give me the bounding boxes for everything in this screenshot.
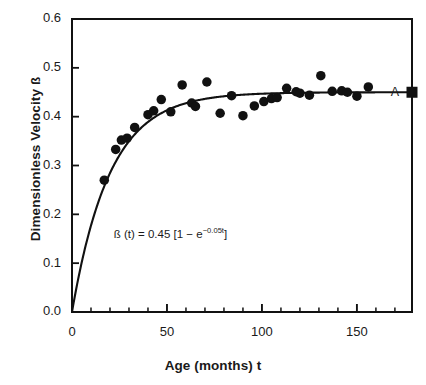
data-point-circle (202, 77, 212, 87)
y-tick-label: 0.3 (43, 157, 61, 172)
data-point-circle (238, 111, 248, 121)
data-point-circle (100, 175, 110, 185)
data-point-circle (166, 107, 176, 117)
equation-exponent: −0.05t (203, 226, 225, 235)
x-tick-label: 0 (68, 324, 75, 339)
y-tick-label: 0.6 (43, 10, 61, 25)
data-point-circle (191, 102, 201, 112)
y-tick-label: 0.4 (43, 108, 61, 123)
y-axis-tick-labels: 0.00.10.20.30.40.50.6 (43, 10, 61, 318)
data-point-circle (364, 82, 374, 92)
axis-tick-marks (72, 68, 395, 312)
x-axis-title-text: Age (months) t (165, 358, 262, 373)
data-point-circle (352, 91, 362, 101)
data-point-circle (227, 91, 237, 101)
y-tick-label: 0.1 (43, 255, 61, 270)
data-point-circle (215, 108, 225, 118)
x-axis-tick-labels: 050100150 (68, 324, 367, 339)
y-tick-label: 0.0 (43, 303, 61, 318)
data-point-square (407, 87, 418, 98)
data-point-circle (157, 95, 167, 105)
equation-tail: ] (224, 228, 227, 240)
data-point-circle (305, 90, 315, 100)
plot-frame-box (72, 19, 412, 312)
data-point-circle (122, 133, 132, 143)
y-axis-title-text: Dimensionless Velocity ß (28, 77, 43, 241)
x-axis-title: Age (months) t (0, 356, 426, 374)
chart-plot-area: 0.00.10.20.30.40.50.6 050100150 A ß (t) … (0, 0, 426, 385)
data-point-circle (149, 106, 159, 116)
fit-equation-annotation: ß (t) = 0.45 [1 − e−0.05t] (114, 226, 227, 240)
data-point-circle (316, 71, 326, 81)
data-point-circle (282, 84, 292, 94)
data-point-circle (177, 80, 187, 90)
data-point-circle (343, 88, 353, 98)
data-point-circle (130, 123, 140, 133)
equation-lead: ß (t) = 0.45 [1 − e (114, 228, 203, 240)
y-axis-title: Dimensionless Velocity ß (26, 39, 44, 279)
chart-figure: 0.00.10.20.30.40.50.6 050100150 A ß (t) … (0, 0, 426, 385)
fit-curve-line (72, 92, 412, 312)
x-tick-label: 100 (251, 324, 273, 339)
y-tick-label: 0.2 (43, 206, 61, 221)
y-tick-label: 0.5 (43, 59, 61, 74)
data-point-circle (111, 145, 121, 155)
asymptote-square-marker (407, 87, 418, 98)
svg-text:ß (t) = 0.45 [1 − e−0.05t]: ß (t) = 0.45 [1 − e−0.05t] (114, 226, 227, 240)
x-tick-label: 150 (346, 324, 368, 339)
asymptote-label: A (391, 85, 400, 99)
data-point-circle (295, 88, 305, 98)
data-point-circle (272, 93, 282, 103)
data-point-circle (327, 87, 337, 97)
data-point-circle (250, 101, 260, 111)
x-tick-label: 50 (160, 324, 174, 339)
